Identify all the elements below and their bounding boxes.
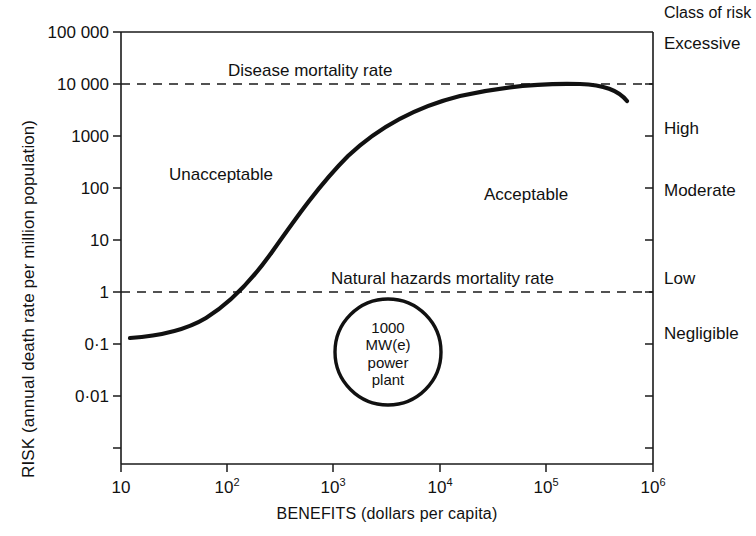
x-tick-label-1e6: 106 [640, 479, 665, 496]
x-tick-exponent: 3 [339, 476, 345, 488]
natural-hazards-mortality-rate-label: Natural hazards mortality rate [331, 270, 554, 287]
x-tick-label-1e3: 103 [320, 479, 345, 496]
x-tick-base: 10 [640, 478, 659, 497]
y-axis-ticks-left [113, 32, 121, 448]
class-of-risk-item-excessive: Excessive [664, 35, 741, 52]
power-plant-line-3: power [328, 354, 448, 371]
x-tick-base: 10 [214, 478, 233, 497]
x-tick-exponent: 2 [233, 476, 239, 488]
power-plant-line-4: plant [328, 371, 448, 388]
class-of-risk-item-high: High [664, 120, 699, 137]
y-tick-label-10000: 10 000 [2, 76, 109, 93]
class-of-risk-item-negligible: Negligible [664, 325, 739, 342]
plot-frame [121, 32, 653, 464]
x-tick-exponent: 6 [659, 476, 665, 488]
y-tick-label-100000: 100 000 [2, 24, 109, 41]
chart-canvas [0, 0, 756, 536]
y-axis-ticks-right [645, 84, 653, 448]
x-tick-label-1e5: 105 [533, 479, 558, 496]
class-of-risk-heading: Class of risk [664, 5, 751, 21]
x-tick-label-1e4: 104 [427, 479, 452, 496]
x-tick-label-1e2: 102 [214, 479, 239, 496]
disease-mortality-rate-label: Disease mortality rate [228, 62, 392, 79]
x-tick-base: 10 [533, 478, 552, 497]
x-axis-title: BENEFITS (dollars per capita) [277, 506, 498, 522]
class-of-risk-item-low: Low [664, 270, 695, 287]
unacceptable-region-label: Unacceptable [169, 166, 273, 183]
class-of-risk-item-moderate: Moderate [664, 182, 736, 199]
x-tick-base: 10 [427, 478, 446, 497]
x-axis-ticks [121, 464, 653, 472]
x-tick-base: 10 [112, 478, 131, 497]
x-tick-exponent: 5 [552, 476, 558, 488]
x-tick-label-10: 10 [112, 479, 131, 496]
x-tick-exponent: 4 [446, 476, 452, 488]
power-plant-line-1: 1000 [328, 319, 448, 336]
power-plant-line-2: MW(e) [328, 336, 448, 353]
power-plant-annotation-text: 1000 MW(e) power plant [328, 319, 448, 389]
acceptable-region-label: Acceptable [484, 186, 568, 203]
chart-figure: 100 000 10 000 1000 100 10 1 0·1 0·01 10… [0, 0, 756, 536]
y-axis-title: RISK (annual death rate per million popu… [20, 120, 37, 478]
x-tick-base: 10 [320, 478, 339, 497]
